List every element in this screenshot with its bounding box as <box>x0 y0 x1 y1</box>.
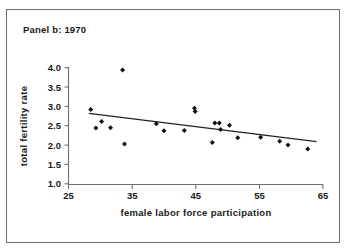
x-tick-label-4: 65 <box>318 190 329 201</box>
data-point <box>210 140 215 145</box>
y-tick-label-1: 1.5 <box>48 159 62 170</box>
y-tick-label-5: 3.5 <box>48 82 62 93</box>
data-point <box>161 128 166 133</box>
data-point <box>305 146 310 151</box>
y-tick-label-4: 3.0 <box>48 101 61 112</box>
data-point <box>93 126 98 131</box>
data-point <box>277 139 282 144</box>
scatter-plot: 4.0 3.5 3.0 2.5 2.0 1.5 1.0 25 35 45 55 … <box>0 0 349 252</box>
x-tick-label-2: 45 <box>191 190 202 201</box>
data-point <box>218 127 223 132</box>
data-point <box>212 121 217 126</box>
data-point <box>286 143 291 148</box>
data-point <box>108 125 113 130</box>
data-point <box>227 123 232 128</box>
data-point <box>120 68 125 73</box>
data-point <box>99 119 104 124</box>
trend-line <box>89 113 317 141</box>
x-tick-label-0: 25 <box>63 190 74 201</box>
data-point <box>258 135 263 140</box>
data-point <box>217 121 222 126</box>
y-axis-ticks <box>65 68 69 184</box>
x-tick-label-3: 55 <box>254 190 265 201</box>
x-axis-ticks <box>69 185 324 190</box>
data-marks-layer <box>88 68 316 152</box>
figure-canvas: Panel b: 1970 4.0 3.5 3.0 2.5 2.0 1.5 1.… <box>0 0 349 252</box>
y-tick-label-6: 4.0 <box>48 62 61 73</box>
y-tick-label-3: 2.5 <box>48 120 62 131</box>
data-point <box>122 141 127 146</box>
data-point <box>88 107 93 112</box>
data-point <box>235 135 240 140</box>
x-tick-label-1: 35 <box>127 190 138 201</box>
y-tick-label-0: 1.0 <box>48 178 61 189</box>
y-axis-title: total fertility rate <box>18 86 29 166</box>
y-tick-label-2: 2.0 <box>48 140 61 151</box>
data-point <box>182 128 187 133</box>
x-axis-title: female labor force participation <box>120 207 271 218</box>
